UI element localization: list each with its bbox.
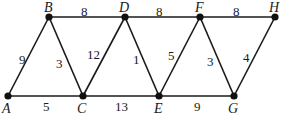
edges bbox=[8, 17, 275, 96]
edge-BC bbox=[49, 17, 83, 96]
edge-GH bbox=[234, 17, 275, 96]
node-label-A: A bbox=[1, 101, 11, 116]
edge-weight-EG: 9 bbox=[194, 99, 201, 114]
edge-weight-AB: 9 bbox=[19, 52, 26, 67]
edge-weight-CE: 13 bbox=[115, 99, 128, 114]
edge-weight-DE: 1 bbox=[133, 52, 140, 67]
edge-weight-CD: 12 bbox=[87, 47, 100, 62]
edge-FG bbox=[200, 17, 234, 96]
node-label-B: B bbox=[44, 0, 53, 15]
node-label-C: C bbox=[77, 101, 87, 116]
node-label-H: H bbox=[268, 0, 280, 15]
weighted-graph: 953812131859384 ABCDEFGH bbox=[0, 0, 291, 125]
edge-weight-BC: 3 bbox=[56, 56, 63, 71]
node-C bbox=[79, 92, 86, 99]
edge-weight-DF: 8 bbox=[156, 4, 163, 19]
node-G bbox=[230, 92, 237, 99]
edge-weight-FH: 8 bbox=[233, 4, 240, 19]
edge-weight-EF: 5 bbox=[168, 48, 175, 63]
node-label-F: F bbox=[194, 0, 204, 15]
node-A bbox=[4, 92, 11, 99]
edge-weight-GH: 4 bbox=[243, 50, 250, 65]
node-label-G: G bbox=[228, 101, 238, 116]
edge-EF bbox=[159, 17, 200, 96]
node-E bbox=[155, 92, 162, 99]
node-label-E: E bbox=[153, 101, 163, 116]
edge-weight-BD: 8 bbox=[81, 4, 88, 19]
node-label-D: D bbox=[118, 0, 129, 15]
edge-AB bbox=[8, 17, 49, 96]
edge-weight-FG: 3 bbox=[207, 54, 214, 69]
edge-DE bbox=[125, 17, 159, 96]
edge-weights: 953812131859384 bbox=[19, 4, 250, 114]
edge-weight-AC: 5 bbox=[43, 99, 50, 114]
